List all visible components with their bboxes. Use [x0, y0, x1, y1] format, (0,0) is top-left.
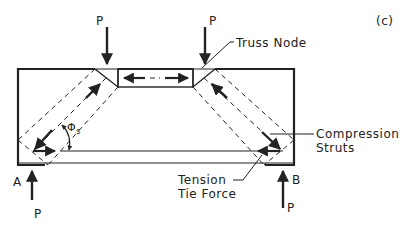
panel-label: (c) — [376, 14, 393, 28]
support-label-a: A — [13, 175, 22, 189]
tension-label-line2: Tie Force — [177, 187, 236, 201]
reaction-label-right: P — [287, 201, 295, 215]
tension-leader — [233, 155, 262, 180]
support-label-b: B — [292, 173, 301, 187]
load-label-left: P — [96, 14, 104, 28]
compression-label-line2: Struts — [316, 141, 355, 155]
compression-label-line1: Compression — [316, 127, 399, 141]
tension-tie — [18, 151, 294, 163]
tension-label-line1: Tension — [177, 173, 226, 187]
angle-label: Φs — [67, 121, 81, 136]
strut-and-tie-diagram: Φs P P A P B P Truss Node Compression St… — [0, 0, 415, 226]
reaction-label-left: P — [34, 207, 42, 221]
load-label-right: P — [209, 14, 217, 28]
truss-node-label: Truss Node — [235, 36, 307, 50]
compression-chord — [118, 69, 193, 87]
